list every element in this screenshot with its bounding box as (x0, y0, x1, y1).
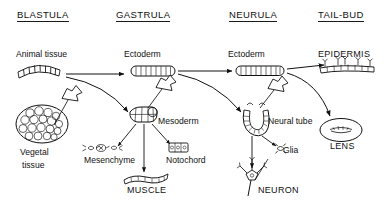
induction-arrow-neurula (260, 76, 288, 108)
developmental-fate-diagram: BLASTULA GASTRULA NEURULA TAIL-BUD Anima… (0, 0, 386, 203)
arrow-ectoderm-to-neural-tube (178, 74, 241, 112)
induction-arrow-gastrula (148, 75, 176, 108)
epidermis-sheet (320, 56, 374, 73)
arrow-ectoderm-to-lens (287, 73, 330, 116)
arrow-ectoderm-to-epidermis (287, 65, 324, 69)
animal-tissue-epithelium (18, 65, 60, 78)
neural-tube-structure (243, 103, 269, 136)
muscle-fiber (124, 174, 168, 184)
neuron-axon-branch (255, 159, 268, 180)
neuron-cell (237, 157, 267, 196)
lens-structure (320, 119, 362, 142)
vegetal-tissue-cell-mass (16, 105, 68, 143)
diagram-artwork (0, 0, 386, 203)
glia-cell (276, 144, 286, 154)
mesenchyme-cells (83, 145, 123, 152)
arrow-mesoderm-to-notochord (152, 124, 170, 144)
ectoderm-sheet-neurula (236, 66, 284, 76)
mesoderm-block (130, 107, 157, 122)
arrow-neural-tube-to-glia (262, 136, 276, 146)
ectoderm-sheet-gastrula (131, 66, 175, 76)
notochord-cells (169, 143, 188, 152)
arrow-mesoderm-to-mesenchyme (118, 124, 136, 146)
